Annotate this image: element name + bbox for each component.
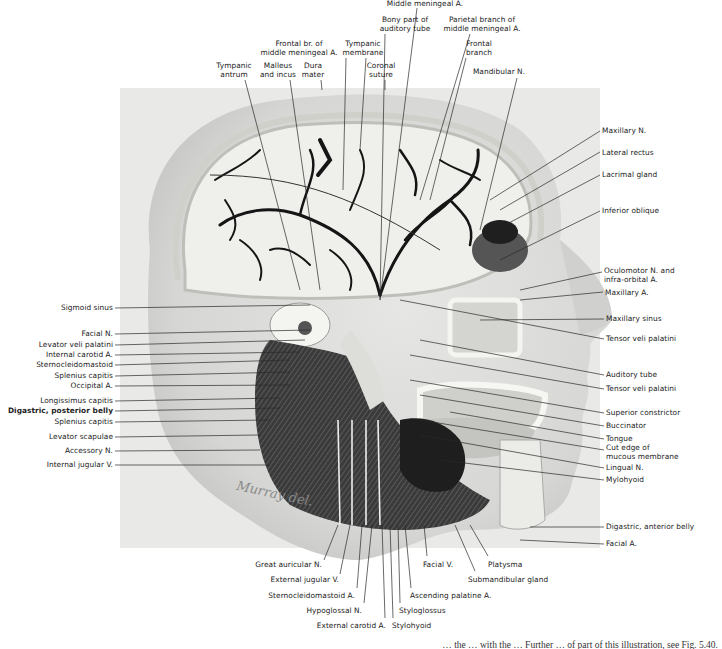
- label-mandibular-n: Mandibular N.: [473, 68, 525, 77]
- label-ascending-palatine-a: Ascending palatine A.: [410, 592, 491, 601]
- label-tympanic-antrum: Tympanicantrum: [216, 62, 251, 79]
- label-digastric-anterior: Digastric, anterior belly: [606, 523, 694, 532]
- label-great-auricular-n: Great auricular N.: [255, 561, 322, 570]
- label-cut-edge-mucous: Cut edge ofmucous membrane: [606, 444, 679, 461]
- label-dura-mater: Duramater: [302, 62, 324, 79]
- label-buccinator: Buccinator: [606, 422, 646, 431]
- label-parietal-branch: Parietal branch ofmiddle meningeal A.: [443, 16, 520, 33]
- label-internal-jugular-v: Internal jugular V.: [47, 461, 113, 470]
- label-digastric-posterior: Digastric, posterior belly: [8, 407, 113, 416]
- label-styloglossus: Styloglossus: [399, 607, 446, 616]
- label-middle-meningeal-a: Middle meningeal A.: [387, 0, 463, 9]
- anatomical-illustration: [0, 0, 722, 649]
- label-coronal-suture: Coronalsuture: [367, 62, 396, 79]
- label-external-carotid-a: External carotid A.: [317, 622, 386, 631]
- maxillary-sinus-window: [450, 300, 520, 355]
- label-sigmoid-sinus: Sigmoid sinus: [61, 304, 113, 313]
- label-maxillary-n: Maxillary N.: [602, 127, 646, 136]
- label-longissimus-capitis: Longissimus capitis: [40, 397, 113, 406]
- label-frontal-br-middle-meningeal: Frontal br. ofmiddle meningeal A.: [260, 40, 337, 57]
- label-maxillary-sinus: Maxillary sinus: [606, 315, 662, 324]
- label-levator-veli-palatini: Levator veli palatini: [39, 341, 113, 350]
- label-bony-part-auditory-tube: Bony part ofauditory tube: [380, 16, 431, 33]
- label-maxillary-a: Maxillary A.: [605, 289, 649, 298]
- label-tensor-veli-palatini-2: Tensor veli palatini: [606, 385, 676, 394]
- eyeball: [482, 220, 518, 244]
- label-accessory-n: Accessory N.: [65, 447, 113, 456]
- label-external-jugular-v: External jugular V.: [271, 576, 340, 585]
- label-frontal-branch: Frontalbranch: [466, 40, 492, 57]
- label-stylohyoid: Stylohyoid: [392, 622, 431, 631]
- label-levator-scapulae: Levator scapulae: [49, 433, 113, 442]
- label-sternocleidomastoid: Sternocleidomastoid: [36, 361, 113, 370]
- label-malleus-and-incus: Malleusand incus: [260, 62, 296, 79]
- figure-caption: … the … with the … Further … of part of …: [0, 637, 722, 649]
- label-facial-n: Facial N.: [82, 330, 113, 339]
- label-mylohyoid: Mylohyoid: [606, 476, 644, 485]
- label-internal-carotid-a: Internal carotid A.: [46, 351, 113, 360]
- label-splenius-capitis-2: Splenius capitis: [54, 418, 113, 427]
- label-tympanic-membrane: Tympanicmembrane: [343, 40, 384, 57]
- auditory-canal: [298, 321, 312, 335]
- label-inferior-oblique: Inferior oblique: [602, 207, 659, 216]
- label-splenius-capitis-1: Splenius capitis: [54, 372, 113, 381]
- label-platysma: Platysma: [488, 561, 522, 570]
- label-oculomotor-n: Oculomotor N. andinfra-orbital A.: [604, 267, 675, 284]
- label-facial-v: Facial V.: [423, 561, 453, 570]
- label-lateral-rectus: Lateral rectus: [602, 149, 654, 158]
- label-auditory-tube: Auditory tube: [606, 371, 657, 380]
- label-sternocleidomastoid-a: Sternocleidomastoid A.: [268, 592, 355, 601]
- label-superior-constrictor: Superior constrictor: [606, 409, 680, 418]
- label-submandibular-gland: Submandibular gland: [468, 576, 548, 585]
- label-lacrimal-gland: Lacrimal gland: [602, 171, 657, 180]
- label-facial-a: Facial A.: [606, 540, 637, 549]
- label-occipital-a: Occipital A.: [71, 382, 113, 391]
- label-lingual-n: Lingual N.: [606, 464, 644, 473]
- label-tensor-veli-palatini-1: Tensor veli palatini: [606, 335, 676, 344]
- label-hypoglossal-n: Hypoglossal N.: [306, 607, 362, 616]
